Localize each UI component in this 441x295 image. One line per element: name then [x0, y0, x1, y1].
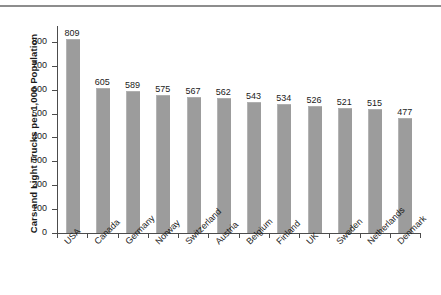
bar-value-label: 477: [385, 108, 425, 117]
x-axis-tick: [87, 233, 88, 238]
y-axis-tick-label: 700: [7, 61, 47, 70]
bar: [338, 108, 352, 233]
plot-area: [57, 30, 420, 233]
y-axis-tick-label: 300: [7, 156, 47, 165]
x-axis-tick: [329, 233, 330, 238]
x-axis-tick: [178, 233, 179, 238]
bar: [368, 109, 382, 233]
y-axis-tick-label: 500: [7, 109, 47, 118]
bar: [66, 39, 80, 233]
bar: [187, 97, 201, 233]
y-axis-tick-label: 0: [7, 228, 47, 237]
bar-value-label: 515: [355, 99, 395, 108]
x-axis-tick: [299, 233, 300, 238]
bar: [277, 104, 291, 233]
x-axis-tick: [269, 233, 270, 238]
x-axis-tick: [239, 233, 240, 238]
y-axis-tick-label: 800: [7, 37, 47, 46]
x-axis-tick: [57, 233, 58, 238]
y-axis-tick-label: 100: [7, 204, 47, 213]
bar: [156, 95, 170, 233]
bar: [308, 106, 322, 233]
x-axis-tick: [420, 233, 421, 238]
x-axis-tick: [390, 233, 391, 238]
bar: [126, 91, 140, 233]
chart-page: Cars and Light Trucks per 1,000 Populati…: [0, 0, 441, 295]
bar-value-label: 809: [52, 29, 92, 38]
bar: [96, 88, 110, 233]
x-axis-tick: [118, 233, 119, 238]
y-axis-tick-label: 600: [7, 85, 47, 94]
x-axis-tick: [360, 233, 361, 238]
y-axis-tick-label: 200: [7, 180, 47, 189]
y-axis-tick-label: 400: [7, 132, 47, 141]
x-axis-tick: [148, 233, 149, 238]
bar-chart: Cars and Light Trucks per 1,000 Populati…: [0, 12, 441, 287]
bar: [247, 102, 261, 233]
x-axis-tick: [208, 233, 209, 238]
top-divider-rule: [0, 5, 441, 7]
